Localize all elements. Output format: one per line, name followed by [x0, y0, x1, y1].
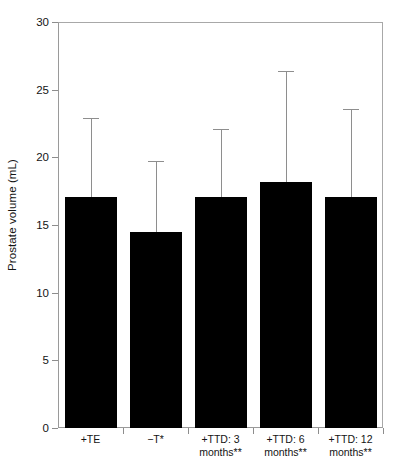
error-bar-stem [91, 118, 92, 196]
y-tick-label: 30 [36, 16, 49, 28]
x-axis-category-label: +TTD: 6months** [253, 433, 318, 458]
y-tick-mark [52, 360, 58, 361]
y-tick-label: 10 [36, 287, 49, 299]
y-tick-mark [52, 90, 58, 91]
error-bar-cap [343, 109, 359, 110]
error-bar-stem [286, 71, 287, 182]
x-axis-category-label-line: months** [318, 446, 383, 459]
error-bar-stem [221, 129, 222, 197]
x-axis-category-label-line: +TE [58, 433, 123, 446]
bar [130, 232, 182, 428]
x-axis-category-label-line: +TTD: 3 [188, 433, 253, 446]
y-tick-mark [52, 293, 58, 294]
bar [260, 182, 312, 428]
y-tick-label: 5 [43, 354, 49, 366]
error-bar-cap [213, 129, 229, 130]
y-tick-label: 25 [36, 84, 49, 96]
x-axis-category-label: +TTD: 3months** [188, 433, 253, 458]
bar [325, 197, 377, 428]
x-axis-labels: +TE−T*+TTD: 3months**+TTD: 6months**+TTD… [58, 433, 383, 465]
plot-area: 051015202530 [58, 22, 383, 428]
y-tick-label: 20 [36, 151, 49, 163]
bar [195, 197, 247, 428]
error-bar-cap [148, 161, 164, 162]
error-bar-stem [156, 161, 157, 231]
error-bar-stem [351, 109, 352, 197]
x-tick-mark [383, 428, 384, 434]
y-tick-mark [52, 22, 58, 23]
x-axis-category-label: −T* [123, 433, 188, 446]
y-axis-title-text: Prostate volume (mL) [6, 159, 18, 271]
bar [65, 197, 117, 428]
y-tick-label: 0 [43, 422, 49, 434]
x-axis-category-label-line: months** [188, 446, 253, 459]
error-bar-cap [278, 71, 294, 72]
x-axis-category-label: +TE [58, 433, 123, 446]
y-tick-label: 15 [36, 219, 49, 231]
y-tick-mark [52, 157, 58, 158]
x-axis-category-label-line: months** [253, 446, 318, 459]
x-axis-category-label-line: +TTD: 12 [318, 433, 383, 446]
y-axis-title: Prostate volume (mL) [0, 0, 24, 430]
prostate-volume-bar-chart: Prostate volume (mL) 051015202530 +TE−T*… [0, 0, 397, 465]
x-axis-category-label-line: −T* [123, 433, 188, 446]
error-bar-cap [83, 118, 99, 119]
y-tick-mark [52, 225, 58, 226]
x-axis-category-label: +TTD: 12months** [318, 433, 383, 458]
y-tick-mark [52, 428, 58, 429]
x-axis-category-label-line: +TTD: 6 [253, 433, 318, 446]
